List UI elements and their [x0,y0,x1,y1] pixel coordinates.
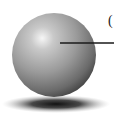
ground-shadow [2,95,110,113]
sphere-diagram [0,0,114,115]
sphere [12,13,96,97]
label-fragment: ( [108,14,113,28]
